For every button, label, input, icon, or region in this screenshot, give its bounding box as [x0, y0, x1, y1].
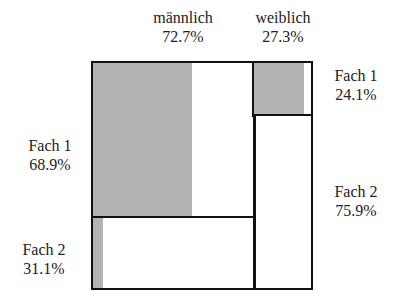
row-name: Fach 2: [320, 182, 392, 201]
tile-shade: [254, 63, 304, 115]
row-share: 24.1%: [320, 85, 392, 104]
column-name: männlich: [128, 8, 238, 27]
row-label-m-fach2: Fach 2 31.1%: [4, 240, 84, 278]
column-name: weiblich: [240, 8, 326, 27]
row-label-w-fach2: Fach 2 75.9%: [320, 182, 392, 220]
row-label-m-fach1: Fach 1 68.9%: [10, 136, 90, 174]
row-share: 75.9%: [320, 201, 392, 220]
tile-weiblich-fach2: [254, 114, 313, 290]
tile-maennlich-fach1: [91, 61, 255, 219]
column-label-maennlich: männlich 72.7%: [128, 8, 238, 46]
column-label-weiblich: weiblich 27.3%: [240, 8, 326, 46]
row-name: Fach 1: [320, 66, 392, 85]
row-share: 31.1%: [4, 259, 84, 278]
tile-shade: [93, 218, 103, 288]
row-name: Fach 1: [10, 136, 90, 155]
column-share: 72.7%: [128, 27, 238, 46]
tile-shade: [93, 63, 192, 217]
row-label-w-fach1: Fach 1 24.1%: [320, 66, 392, 104]
row-share: 68.9%: [10, 155, 90, 174]
column-share: 27.3%: [240, 27, 326, 46]
row-name: Fach 2: [4, 240, 84, 259]
tile-weiblich-fach1: [252, 61, 313, 117]
tile-maennlich-fach2: [91, 216, 255, 290]
